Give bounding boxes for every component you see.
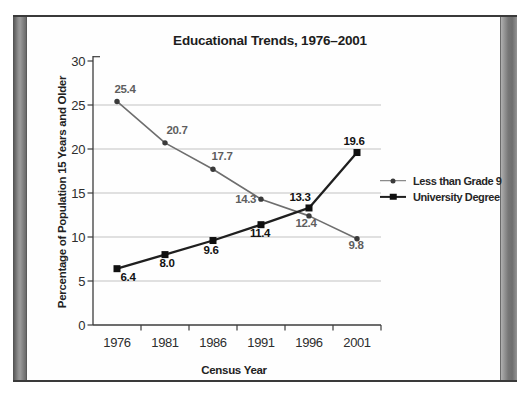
data-point-label-university-degree: 11.4	[250, 227, 271, 239]
data-point-label-less-than-grade-9: 17.7	[212, 150, 233, 162]
y-tick-label: 5	[78, 274, 85, 289]
scanned-chart-page: Educational Trends, 1976–2001 Percentage…	[0, 0, 527, 398]
data-point-label-university-degree: 8.0	[160, 257, 175, 269]
x-tick-label: 1986	[199, 335, 226, 350]
y-tick-label: 25	[71, 98, 85, 113]
data-point-marker-less-than-grade-9	[258, 196, 263, 201]
data-point-label-less-than-grade-9: 9.8	[349, 239, 365, 251]
legend-item-less-than-grade-9: Less than Grade 9	[380, 174, 502, 187]
chart-legend: Less than Grade 9 University Degree	[380, 174, 502, 203]
data-point-label-university-degree: 13.3	[290, 191, 311, 203]
x-axis-title: Census Year	[201, 364, 267, 376]
data-point-marker-university-degree	[114, 265, 121, 272]
y-tick-label: 20	[71, 142, 85, 157]
data-point-label-university-degree: 6.4	[121, 271, 137, 283]
data-point-marker-less-than-grade-9	[162, 140, 167, 145]
x-tick-label: 1976	[103, 335, 130, 350]
legend-item-university-degree: University Degree	[380, 190, 502, 203]
data-point-marker-university-degree	[306, 204, 313, 211]
legend-line-sample	[380, 192, 406, 201]
x-tick-label: 1996	[295, 335, 322, 350]
y-tick-label: 10	[71, 230, 85, 245]
legend-marker-circle-icon	[391, 178, 396, 183]
legend-label: Less than Grade 9	[413, 175, 502, 187]
data-point-marker-university-degree	[354, 149, 361, 156]
data-point-label-university-degree: 19.6	[344, 135, 365, 147]
x-tick-label: 2001	[343, 335, 370, 350]
data-point-marker-less-than-grade-9	[210, 167, 215, 172]
x-tick-label: 1991	[247, 335, 274, 350]
x-tick-label: 1981	[151, 335, 178, 350]
data-point-label-less-than-grade-9: 12.4	[296, 217, 318, 229]
data-point-label-less-than-grade-9: 14.3	[235, 193, 256, 205]
series-line-university-degree	[117, 153, 357, 269]
y-tick-label: 30	[71, 54, 85, 69]
data-point-marker-less-than-grade-9	[114, 99, 119, 104]
legend-marker-square-icon	[390, 193, 397, 200]
data-point-label-less-than-grade-9: 25.4	[115, 83, 137, 95]
y-tick-label: 0	[78, 318, 85, 333]
legend-line-sample	[380, 176, 406, 185]
y-tick-label: 15	[71, 186, 85, 201]
legend-label: University Degree	[413, 191, 500, 203]
data-point-label-university-degree: 9.6	[204, 244, 219, 256]
data-point-label-less-than-grade-9: 20.7	[167, 124, 188, 136]
series-line-less-than-grade-9	[117, 101, 357, 238]
